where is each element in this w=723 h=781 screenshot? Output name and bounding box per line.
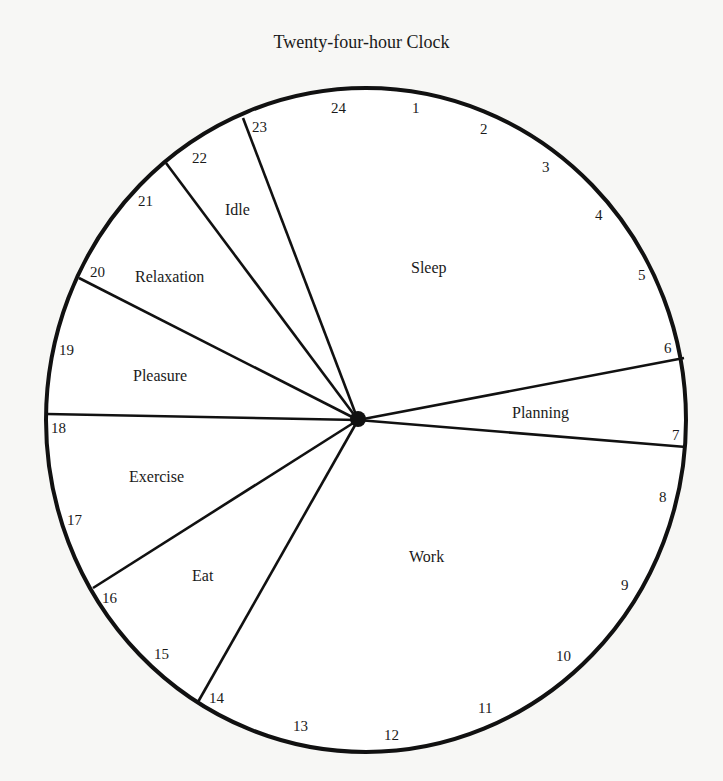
clock-diagram: 24 1 2 3 4 5 6 7 8 9 10 11 12 13 14 15 1… <box>0 0 723 781</box>
hour-9: 9 <box>621 577 629 593</box>
segment-idle: Idle <box>225 201 250 218</box>
hour-7: 7 <box>672 427 680 443</box>
segment-sleep: Sleep <box>411 259 447 277</box>
hour-15: 15 <box>154 646 169 662</box>
hour-21: 21 <box>138 193 153 209</box>
hour-2: 2 <box>480 121 488 137</box>
segment-pleasure: Pleasure <box>133 367 187 384</box>
center-hub <box>350 411 366 427</box>
hour-4: 4 <box>595 207 603 223</box>
hour-16: 16 <box>102 590 118 606</box>
hour-5: 5 <box>638 267 646 283</box>
hour-1: 1 <box>412 100 420 116</box>
hour-11: 11 <box>478 700 492 716</box>
hour-17: 17 <box>67 512 83 528</box>
hour-23: 23 <box>252 119 267 135</box>
hour-6: 6 <box>664 340 672 356</box>
hour-19: 19 <box>59 342 74 358</box>
hour-18: 18 <box>51 420 66 436</box>
segment-eat: Eat <box>192 567 214 584</box>
segment-work: Work <box>409 548 444 565</box>
hour-12: 12 <box>384 727 399 743</box>
segment-relaxation: Relaxation <box>135 268 204 285</box>
segment-planning: Planning <box>512 404 569 422</box>
hour-20: 20 <box>90 264 105 280</box>
hour-8: 8 <box>659 489 667 505</box>
hour-3: 3 <box>542 159 550 175</box>
segment-exercise: Exercise <box>129 468 184 485</box>
hour-22: 22 <box>192 150 207 166</box>
hour-10: 10 <box>556 648 571 664</box>
hour-24: 24 <box>331 100 347 116</box>
hour-13: 13 <box>293 718 308 734</box>
hour-14: 14 <box>209 690 225 706</box>
